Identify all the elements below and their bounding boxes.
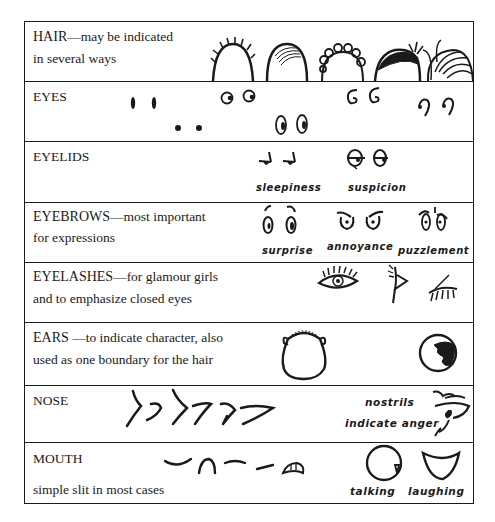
row-subtitle: —for glamour girls bbox=[113, 269, 218, 284]
eyebrow-expressions-icon bbox=[259, 203, 469, 243]
row-title: EARS bbox=[33, 330, 69, 345]
hair-styles-icon bbox=[205, 22, 475, 82]
row-subtitle: —may be indicated bbox=[67, 29, 173, 44]
row-subtitle-2: in several ways bbox=[33, 48, 116, 70]
caption-suspicion: suspicion bbox=[348, 182, 406, 193]
row-label: EYELASHES—for glamour girls bbox=[33, 266, 218, 288]
caption-nostrils: nostrils bbox=[365, 396, 414, 408]
row-label: HAIR—may be indicated bbox=[33, 26, 173, 48]
row-subtitle-2: for expressions bbox=[33, 227, 115, 249]
row-subtitle: —to indicate character, also bbox=[69, 330, 223, 345]
row-subtitle-2: simple slit in most cases bbox=[33, 479, 164, 501]
row-title: MOUTH bbox=[33, 448, 83, 470]
caption-indicate-anger: indicate anger bbox=[345, 417, 439, 429]
ear-styles-icon bbox=[278, 323, 458, 385]
nose-styles-icon bbox=[125, 386, 295, 441]
eyelid-sleepiness-icon bbox=[255, 142, 395, 182]
row-eyelashes: EYELASHES—for glamour girls and to empha… bbox=[25, 263, 473, 323]
row-eyebrows: EYEBROWS—most important for expressions … bbox=[25, 203, 473, 263]
caption-talking: talking bbox=[350, 485, 395, 497]
caption-annoyance: annoyance bbox=[327, 241, 393, 252]
caption-puzzlement: puzzlement bbox=[398, 245, 469, 256]
caption-sleepiness: sleepiness bbox=[256, 182, 321, 193]
row-eyelids: EYELIDS sleepiness suspicion bbox=[25, 142, 473, 203]
row-ears: EARS —to indicate character, also used a… bbox=[25, 323, 473, 386]
angry-nose-profile-icon bbox=[429, 388, 475, 440]
row-title: NOSE bbox=[33, 390, 68, 412]
row-title: EYES bbox=[33, 86, 67, 108]
row-label: EYEBROWS—most important bbox=[33, 206, 206, 228]
row-label: EARS —to indicate character, also bbox=[33, 327, 223, 349]
row-subtitle: —most important bbox=[110, 209, 206, 224]
mouth-styles-icon bbox=[163, 443, 463, 488]
row-title: EYEBROWS bbox=[33, 209, 110, 224]
row-title: EYELASHES bbox=[33, 269, 113, 284]
row-hair: HAIR—may be indicated in several ways bbox=[25, 22, 473, 82]
caption-surprise: surprise bbox=[262, 245, 313, 256]
row-title: HAIR bbox=[33, 29, 67, 44]
row-nose: NOSE nostrils indicate anger bbox=[25, 386, 473, 443]
row-title: EYELIDS bbox=[33, 146, 89, 168]
caption-laughing: laughing bbox=[408, 485, 465, 497]
eye-styles-icon bbox=[125, 82, 465, 142]
feature-chart-table: HAIR—may be indicated in several ways EY… bbox=[24, 21, 474, 504]
row-subtitle-2: used as one boundary for the hair bbox=[33, 349, 213, 371]
row-mouth: MOUTH simple slit in most cases talking … bbox=[25, 443, 473, 504]
row-eyes: EYES bbox=[25, 82, 473, 142]
eyelash-styles-icon bbox=[317, 263, 467, 313]
row-subtitle-2: and to emphasize closed eyes bbox=[33, 288, 192, 310]
